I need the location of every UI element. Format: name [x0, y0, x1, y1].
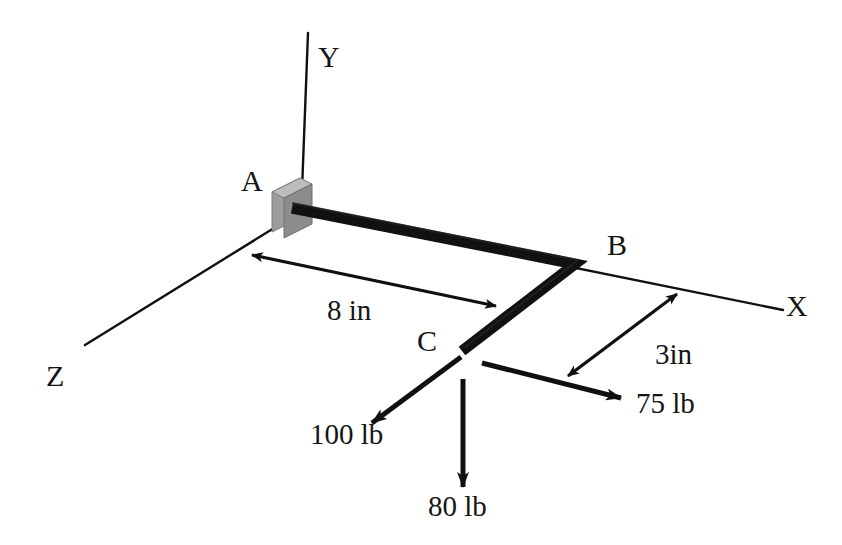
force-100lb-arrow [372, 357, 461, 423]
dimension-8in-line [252, 255, 496, 306]
force-label-80lb: 80 lb [428, 492, 487, 521]
z-axis-line [85, 212, 300, 345]
dimension-8in [252, 255, 496, 306]
statics-figure [0, 0, 842, 545]
point-label-c: C [417, 326, 437, 356]
force-label-75lb: 75 lb [636, 389, 695, 418]
y-axis-label: Y [318, 42, 340, 72]
point-label-b: B [607, 230, 627, 260]
z-axis-label: Z [46, 361, 64, 391]
x-axis-label: X [786, 291, 808, 321]
force-vectors [372, 357, 621, 487]
dimension-label-8in: 8 in [327, 296, 371, 325]
point-label-a: A [241, 166, 263, 196]
force-label-100lb: 100 lb [310, 420, 383, 449]
force-75lb-arrow [482, 363, 621, 398]
dimension-label-3in: 3in [655, 340, 692, 369]
axis-group [85, 33, 783, 345]
diagram-canvas: Y X Z A B C 8 in 3in 100 lb 80 lb 75 lb [0, 0, 842, 545]
